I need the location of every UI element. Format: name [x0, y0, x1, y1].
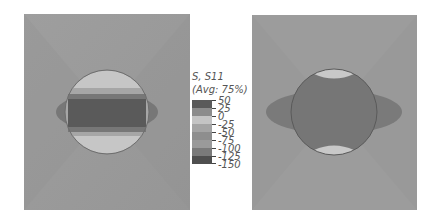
colorbar-tick: [212, 124, 216, 125]
colorbar-band-1: [192, 100, 212, 108]
colorbar-tick: [212, 116, 216, 117]
stress-legend: S, S11 (Avg: 75%) 50 25 0 -25 -50 -75 -1…: [190, 68, 252, 180]
tick-label: -150: [218, 160, 241, 170]
colorbar-band-2: [192, 108, 212, 116]
contour-left-graphic: [24, 14, 190, 210]
colorbar-tick: [212, 156, 216, 157]
contour-plot-right: [252, 15, 417, 210]
colorbar-tick: [212, 108, 216, 109]
legend-title: S, S11: [192, 70, 224, 83]
colorbar-tick: [212, 163, 216, 164]
contour-right-graphic: [252, 15, 417, 210]
colorbar-tick: [212, 148, 216, 149]
colorbar-band-6: [192, 140, 212, 148]
colorbar-band-4: [192, 124, 212, 132]
colorbar-tick: [212, 132, 216, 133]
colorbar-band-8: [192, 156, 212, 164]
colorbar-band-5: [192, 132, 212, 140]
colorbar-band-3: [192, 116, 212, 124]
contour-plot-left: [24, 14, 190, 210]
colorbar-tick: [212, 140, 216, 141]
colorbar-tick: [212, 100, 216, 101]
colorbar: 50 25 0 -25 -50 -75 -100 -125 -150: [192, 100, 212, 164]
colorbar-band-7: [192, 148, 212, 156]
